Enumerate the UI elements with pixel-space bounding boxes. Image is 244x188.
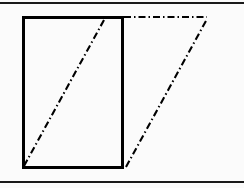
figure-canvas (0, 0, 244, 188)
line-drawing-svg (0, 0, 244, 188)
